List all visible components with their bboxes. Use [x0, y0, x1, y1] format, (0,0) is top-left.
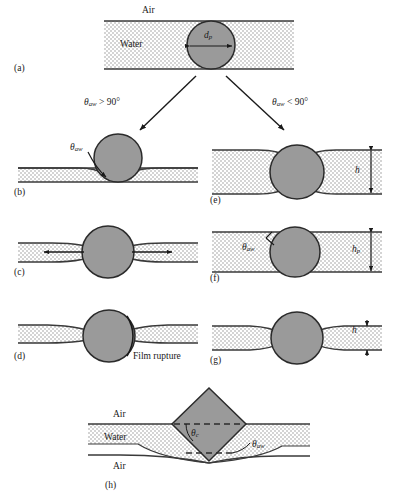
panel-a-water-label: Water — [120, 40, 142, 50]
panel-h-angle-aw-label: θaw — [252, 440, 265, 450]
panel-label-d: (d) — [14, 352, 25, 362]
panel-b-graphic — [18, 134, 198, 182]
panel-f-contact-angle-label: θaw — [242, 243, 255, 253]
panel-a-air-label: Air — [142, 6, 155, 16]
panel-c-graphic — [18, 226, 198, 278]
panel-label-a: (a) — [14, 64, 25, 74]
panel-g-height-label: h — [352, 326, 357, 336]
figure-canvas: Air Water dp (a) θaw > 90° θaw < 90° θaw… — [0, 0, 399, 498]
particle-diameter-label: dp — [204, 31, 212, 41]
panel-h-air-top-label: Air — [113, 410, 126, 420]
panel-g-graphic — [212, 312, 382, 364]
panel-d-film-rupture-caption: Film rupture — [133, 352, 181, 362]
panel-h-graphic — [88, 388, 310, 463]
panel-label-c: (c) — [14, 268, 25, 278]
panel-b-contact-angle-label: θaw — [70, 143, 83, 153]
panel-label-g: (g) — [210, 356, 221, 366]
panel-e-height-label: h — [355, 166, 360, 176]
panel-label-b: (b) — [14, 188, 25, 198]
panel-h-water-label: Water — [104, 433, 126, 443]
panel-h-air-bottom-label: Air — [113, 462, 126, 472]
panel-label-e: (e) — [210, 196, 221, 206]
branch-condition-left: θaw > 90° — [84, 98, 120, 108]
panel-h-angle-c-label: θc — [191, 429, 199, 439]
panel-label-f: (f) — [210, 274, 220, 284]
panel-f-height-label: hp — [352, 245, 360, 255]
panel-label-h: (h) — [105, 481, 116, 491]
schematic-svg — [0, 0, 399, 498]
branch-arrows — [140, 76, 284, 130]
branch-condition-right: θaw < 90° — [272, 98, 308, 108]
